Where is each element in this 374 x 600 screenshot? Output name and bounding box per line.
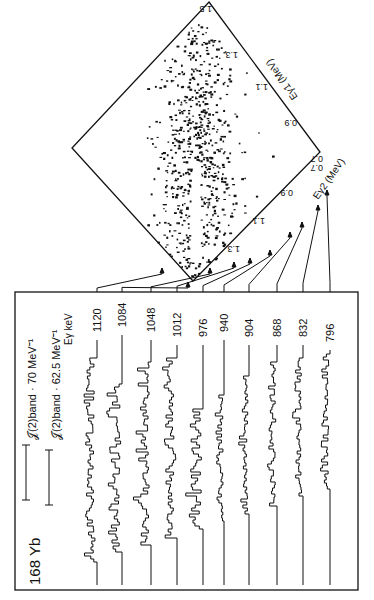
svg-text:1.3: 1.3 — [227, 244, 240, 254]
x-axis-ticks: 0.7 0.9 1.1 1.3 1.5 — [199, 4, 323, 164]
svg-text:1.5: 1.5 — [199, 4, 212, 14]
gate-label: 1048 — [145, 308, 157, 332]
gated-spectra: 1120108410481012976940904868832796 — [84, 303, 336, 585]
legend: 𝒥(2)band · 70 MeV⁻¹ 𝒥(2)band · 62.5 MeV⁻… — [22, 313, 74, 505]
x-axis-label: Eγ1 (MeV) — [264, 57, 300, 102]
figure-canvas: 0.7 0.9 1.1 1.3 1.5 Eγ1 (MeV) 0.7 0.9 1.… — [0, 0, 374, 600]
gate-label: 796 — [324, 324, 336, 342]
svg-text:0.7: 0.7 — [310, 163, 323, 173]
svg-text:1.1: 1.1 — [255, 82, 268, 92]
gate-label: 832 — [297, 319, 309, 337]
gate-arrows — [97, 190, 330, 292]
svg-text:0.7: 0.7 — [310, 154, 323, 164]
gate-label: 868 — [271, 319, 283, 337]
gate-label: 1084 — [116, 303, 128, 327]
y-axis-ticks: 0.7 0.9 1.1 1.3 — [227, 163, 323, 254]
svg-text:𝒥(2)band · 62.5 MeV⁻¹: 𝒥(2)band · 62.5 MeV⁻¹ — [50, 329, 63, 440]
matrix-dots — [147, 24, 275, 277]
energy-axis-label: Eγ keV — [63, 313, 74, 345]
gate-label: 976 — [197, 319, 209, 337]
svg-text:0.9: 0.9 — [284, 118, 297, 128]
svg-text:1.3: 1.3 — [225, 50, 238, 60]
svg-text:1.1: 1.1 — [252, 216, 265, 226]
gate-label: 904 — [243, 319, 255, 337]
svg-text:𝒥(2)band · 70 MeV⁻¹: 𝒥(2)band · 70 MeV⁻¹ — [26, 338, 39, 440]
nucleus-label: 168 Yb — [26, 538, 43, 585]
gate-label: 940 — [218, 314, 230, 332]
gate-label: 1012 — [171, 313, 183, 337]
gate-label: 1120 — [91, 308, 103, 332]
svg-text:0.9: 0.9 — [280, 188, 293, 198]
